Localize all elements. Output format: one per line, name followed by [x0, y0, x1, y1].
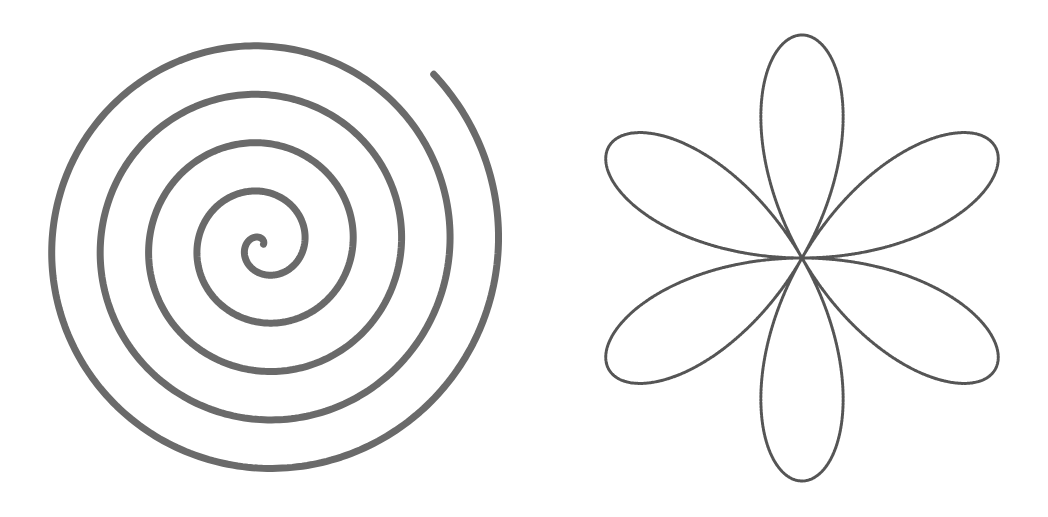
figure-canvas [0, 0, 1048, 517]
